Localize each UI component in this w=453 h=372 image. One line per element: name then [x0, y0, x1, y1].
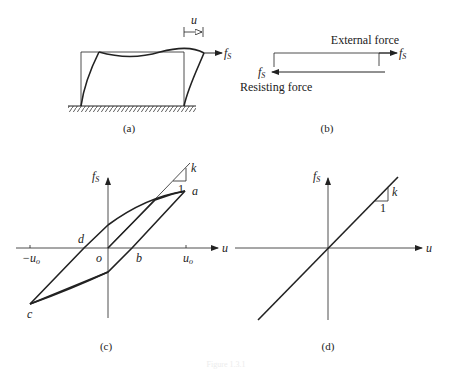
x-axis-label-d: u	[426, 241, 432, 255]
panel-d-linear-plot: u fS k 1 (d)	[235, 169, 432, 353]
undeformed-frame	[81, 52, 184, 106]
point-c-label: c	[27, 307, 33, 321]
resisting-force-label: Resisting force	[240, 80, 312, 94]
force-label-a: fS	[224, 46, 231, 61]
figure-canvas: fS u (a) External force fS fS Resisting …	[0, 0, 453, 372]
panel-a-frame-diagram: fS u (a)	[68, 13, 231, 135]
deformed-beam	[99, 48, 204, 56]
deformed-left-column	[81, 52, 99, 106]
x-axis-label-c: u	[222, 241, 228, 255]
caption-a: (a)	[123, 122, 136, 135]
external-force-line	[274, 53, 393, 67]
tick-label-neg-uo: −uo	[22, 251, 40, 266]
caption-c: (c)	[100, 340, 113, 353]
resisting-force-symbol: fS	[258, 65, 265, 80]
panel-b-free-body: External force fS fS Resisting force (b)	[240, 33, 406, 135]
displacement-label: u	[191, 13, 197, 27]
point-o-label: o	[96, 251, 102, 265]
external-force-label: External force	[331, 33, 399, 47]
tick-label-pos-uo: uo	[183, 251, 193, 266]
figure-footer-caption: Figure 1.3.1	[207, 360, 246, 369]
y-axis-label-c: fS	[92, 169, 99, 184]
point-b-label: b	[136, 251, 142, 265]
ground-hatch	[68, 106, 196, 112]
caption-b: (b)	[321, 122, 334, 135]
slope-k-d: k	[392, 185, 398, 199]
point-d-label: d	[78, 232, 85, 246]
slope-one-d: 1	[380, 201, 386, 215]
slope-k-c: k	[191, 161, 197, 175]
caption-d: (d)	[322, 340, 335, 353]
deformed-right-column	[184, 53, 204, 106]
panel-c-hysteresis-plot: u fS −uo uo k 1 a b c d o (c)	[16, 161, 228, 353]
point-a-label: a	[192, 184, 198, 198]
external-force-symbol: fS	[399, 46, 406, 61]
virgin-loading-curve	[108, 191, 185, 248]
y-axis-label-d: fS	[313, 169, 320, 184]
